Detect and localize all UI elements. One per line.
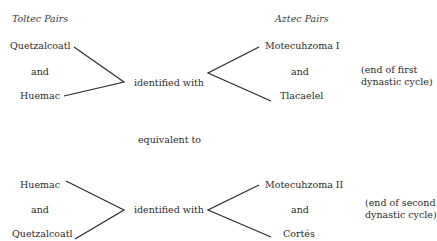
toltec-and-2: and bbox=[31, 205, 49, 215]
aztec-name-1b: Tlacaelel bbox=[280, 91, 323, 101]
aztec-and-2: and bbox=[291, 205, 309, 215]
aztec-name-2b: Cortés bbox=[283, 229, 315, 239]
toltec-name-2b: Quetzalcoatl bbox=[12, 229, 73, 239]
toltec-pairs-header: Toltec Pairs bbox=[12, 14, 68, 24]
cycle-note-2: (end of second dynastic cycle) bbox=[365, 197, 437, 221]
cycle-note-1: (end of first dynastic cycle) bbox=[361, 64, 433, 88]
relation-1: identified with bbox=[134, 78, 204, 88]
aztec-pairs-header: Aztec Pairs bbox=[275, 14, 329, 24]
toltec-name-1b: Huemac bbox=[20, 91, 60, 101]
toltec-name-2a: Huemac bbox=[20, 180, 60, 190]
aztec-and-1: and bbox=[291, 67, 309, 77]
aztec-name-2a: Motecuhzoma II bbox=[265, 180, 343, 190]
aztec-name-1a: Motecuhzoma I bbox=[265, 41, 340, 51]
relation-2: identified with bbox=[134, 205, 204, 215]
toltec-and-1: and bbox=[31, 67, 49, 77]
equivalent-to-label: equivalent to bbox=[138, 135, 201, 145]
toltec-name-1a: Quetzalcoatl bbox=[10, 41, 71, 51]
